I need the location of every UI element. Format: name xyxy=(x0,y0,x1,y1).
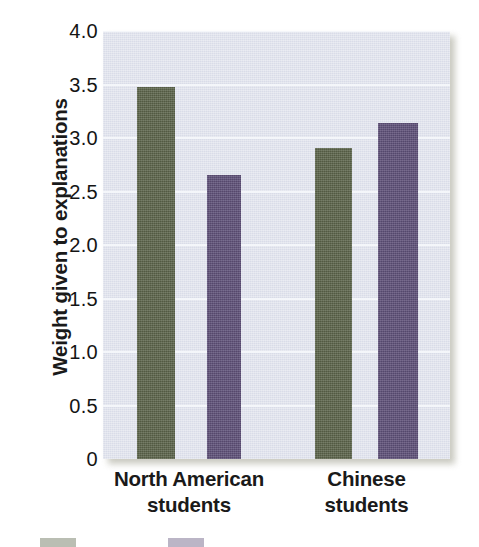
gridline xyxy=(103,31,450,32)
category-label-line: Chinese xyxy=(247,466,479,492)
bar xyxy=(207,175,241,459)
bar xyxy=(137,87,175,459)
bar-chart-figure: Weight given to explanations 00.51.01.52… xyxy=(0,0,479,547)
legend-swatch xyxy=(168,538,204,547)
y-axis-tick-labels: 00.51.01.52.02.53.03.54.0 xyxy=(52,0,98,547)
bar xyxy=(378,123,418,459)
y-axis-tick-label: 1.0 xyxy=(52,342,98,362)
legend-swatch xyxy=(40,538,76,547)
x-axis-category-labels: North AmericanstudentsChinesestudents xyxy=(103,466,450,522)
y-axis-tick-label: 4.0 xyxy=(52,21,98,41)
chart-legend xyxy=(0,538,479,547)
x-axis-category-label: Chinesestudents xyxy=(247,466,479,518)
plot-area xyxy=(103,31,450,459)
y-axis-tick-label: 2.0 xyxy=(52,235,98,255)
y-axis-tick-label: 1.5 xyxy=(52,289,98,309)
bar xyxy=(315,148,352,459)
y-axis-tick-label: 2.5 xyxy=(52,182,98,202)
y-axis-tick-label: 3.5 xyxy=(52,75,98,95)
y-axis-tick-label: 0.5 xyxy=(52,396,98,416)
y-axis-tick-label: 3.0 xyxy=(52,128,98,148)
category-label-line: students xyxy=(247,492,479,518)
gridline xyxy=(103,84,450,86)
